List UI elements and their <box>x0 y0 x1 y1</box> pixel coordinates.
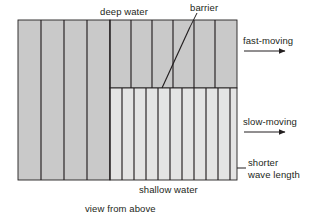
fast-moving-label: fast-moving <box>243 35 293 46</box>
shallow-water-label: shallow water <box>139 184 198 195</box>
shorter-wave-length-label-line2: wave length <box>248 169 314 181</box>
deep-water-label: deep water <box>100 6 148 17</box>
view-from-above-caption: view from above <box>85 203 156 214</box>
slow-moving-label: slow-moving <box>243 116 297 127</box>
shorter-wave-length-label: shorter wave length <box>248 157 314 180</box>
shorter-wave-length-label-line1: shorter <box>248 157 314 169</box>
wave-refraction-diagram: deep water barrier fast-moving slow-movi… <box>0 0 317 223</box>
barrier-label: barrier <box>190 2 218 13</box>
